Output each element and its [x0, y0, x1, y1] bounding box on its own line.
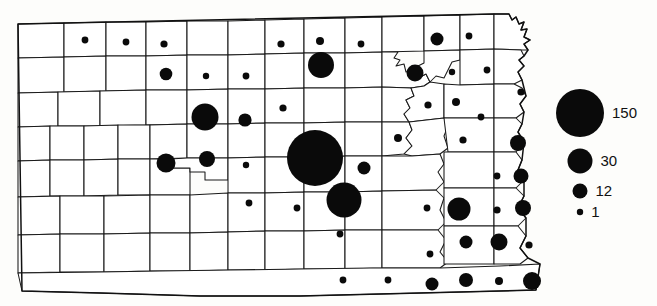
map-symbol	[279, 104, 286, 111]
map-symbol	[394, 134, 402, 142]
map-symbol	[493, 206, 500, 213]
map-symbol	[243, 162, 249, 168]
map-symbol	[495, 277, 503, 285]
map-symbol	[514, 169, 529, 184]
map-symbol	[491, 234, 508, 251]
map-symbol	[426, 278, 439, 291]
map-symbol	[358, 41, 365, 48]
map-symbol	[192, 104, 219, 131]
map-symbol	[327, 183, 362, 218]
map-symbol	[459, 136, 466, 143]
map-symbol	[515, 200, 531, 216]
legend-label: 12	[596, 182, 613, 199]
map-symbol	[123, 39, 130, 46]
legend-group: 15030121	[556, 89, 637, 220]
legend-symbol	[577, 209, 583, 215]
map-symbol	[82, 37, 89, 44]
map-symbol	[494, 173, 501, 180]
map-symbol	[448, 198, 471, 221]
figure-canvas: 15030121	[0, 0, 657, 306]
map-symbol	[459, 273, 473, 287]
legend-symbol	[556, 89, 604, 137]
map-symbol	[424, 101, 431, 108]
map-symbol	[385, 277, 392, 284]
map-symbol	[478, 114, 485, 121]
legend-label: 1	[591, 203, 599, 220]
map-symbol	[517, 88, 524, 95]
map-symbol	[203, 73, 209, 79]
map-symbol	[424, 205, 431, 212]
map-symbol	[199, 151, 215, 167]
map-symbol	[449, 69, 455, 75]
map-symbol	[160, 68, 173, 81]
map-symbol	[525, 241, 532, 248]
map-symbol	[427, 251, 434, 258]
map-symbol	[316, 37, 324, 45]
map-symbol	[277, 40, 284, 47]
map-symbol	[358, 162, 371, 175]
map-symbol	[460, 236, 473, 249]
county-boundaries	[18, 14, 540, 296]
legend-symbol	[568, 149, 593, 174]
map-symbol	[431, 33, 444, 46]
legend-symbol	[573, 184, 588, 199]
map-symbol	[466, 33, 473, 40]
map-symbol	[337, 231, 344, 238]
legend-label: 150	[612, 104, 637, 121]
map-symbol	[484, 67, 491, 74]
map-symbol	[238, 113, 251, 126]
map-symbol	[523, 272, 541, 290]
map-symbol	[157, 154, 176, 173]
map-symbol	[308, 52, 334, 78]
map-symbol	[243, 73, 250, 80]
map-symbol	[510, 135, 526, 151]
map-symbol	[452, 98, 460, 106]
map-symbol	[287, 130, 343, 186]
map-symbol	[160, 40, 167, 47]
legend-label: 30	[601, 152, 618, 169]
kansas-county-map: 15030121	[0, 0, 657, 306]
map-symbol	[340, 277, 347, 284]
map-symbol	[246, 200, 253, 207]
map-symbol	[407, 65, 424, 82]
map-symbol	[294, 205, 301, 212]
